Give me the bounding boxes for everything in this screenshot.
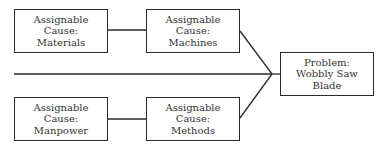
cause-box-methods: Assignable Cause: Methods xyxy=(146,97,240,141)
problem-box: Problem: Wobbly Saw Blade xyxy=(280,52,374,96)
cause-box-materials: Assignable Cause: Materials xyxy=(14,9,108,53)
machines-problem-line xyxy=(240,31,272,74)
problem-label-line: Blade xyxy=(313,80,342,92)
cause-label-line: Assignable xyxy=(33,14,88,26)
cause-label-line: Materials xyxy=(37,37,85,49)
cause-box-manpower: Assignable Cause: Manpower xyxy=(14,97,108,141)
problem-label-line: Wobbly Saw xyxy=(296,68,358,80)
cause-label-line: Assignable xyxy=(33,102,88,114)
cause-box-machines: Assignable Cause: Machines xyxy=(146,9,240,53)
cause-label-line: Machines xyxy=(169,37,218,49)
cause-label-line: Cause: xyxy=(176,25,210,37)
problem-label-line: Problem: xyxy=(304,57,350,69)
cause-label-line: Methods xyxy=(171,125,215,137)
cause-label-line: Cause: xyxy=(44,25,78,37)
cause-label-line: Cause: xyxy=(176,113,210,125)
cause-label-line: Manpower xyxy=(34,125,88,137)
cause-label-line: Assignable xyxy=(165,102,220,114)
cause-label-line: Cause: xyxy=(44,113,78,125)
methods-problem-line xyxy=(240,74,272,118)
cause-label-line: Assignable xyxy=(165,14,220,26)
